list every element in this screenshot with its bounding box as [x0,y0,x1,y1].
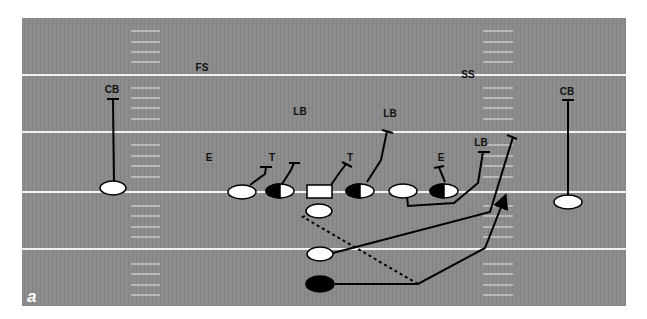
football-play-diagram: CB FS SS CB LB LB LB E T T E a [0,0,647,319]
label-lb-left: LB [293,106,306,117]
label-cb-left: CB [105,84,119,95]
player-fullback [307,247,333,261]
label-t-right: T [347,152,353,163]
label-cb-right: CB [560,86,574,97]
player-tailback [306,276,334,292]
panel-label: a [27,287,36,306]
player-guard-right [346,184,374,198]
player-wr-right [554,195,582,209]
label-t-left: T [269,152,275,163]
label-e-right: E [438,152,445,163]
field [22,18,626,306]
player-wr-left [100,181,126,195]
player-tackle-left [228,185,256,199]
label-fs: FS [196,62,209,73]
player-quarterback [306,204,332,218]
label-e-left: E [206,152,213,163]
player-tackle-right [389,184,417,198]
label-lb-right: LB [474,137,487,148]
player-guard-left [266,184,294,198]
label-ss: SS [461,69,475,80]
player-center [307,185,332,198]
player-tight-end [430,184,458,198]
label-lb-mid: LB [383,108,396,119]
